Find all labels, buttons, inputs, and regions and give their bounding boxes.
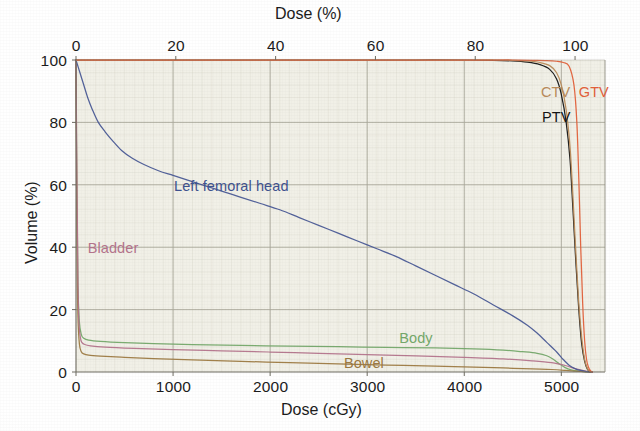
left-tick-80: 80 <box>49 115 67 131</box>
top-tick-60: 60 <box>367 38 385 54</box>
left-tick-40: 40 <box>49 240 67 256</box>
left-tick-20: 20 <box>49 303 67 319</box>
bottom-tick-1000: 1000 <box>156 379 191 395</box>
bottom-tick-5000: 5000 <box>544 379 579 395</box>
left-axis-title: Volume (%) <box>24 181 40 264</box>
annotation-left-femoral-head: Left femoral head <box>174 179 289 194</box>
top-axis-title: Dose (%) <box>275 6 342 22</box>
bottom-tick-4000: 4000 <box>447 379 482 395</box>
annotation-body: Body <box>399 331 432 346</box>
dvh-figure: Dose (%) 020406080100 010002000300040005… <box>0 0 640 431</box>
bottom-tick-3000: 3000 <box>350 379 385 395</box>
annotation-gtv: GTV <box>579 85 609 100</box>
left-tick-0: 0 <box>58 365 67 381</box>
left-tick-60: 60 <box>49 178 67 194</box>
top-tick-0: 0 <box>72 38 81 54</box>
top-tick-20: 20 <box>167 38 185 54</box>
top-tick-80: 80 <box>467 38 485 54</box>
annotation-bladder: Bladder <box>88 241 139 256</box>
annotation-bowel: Bowel <box>344 356 384 371</box>
dvh-plot <box>0 0 640 431</box>
bottom-axis-title: Dose (cGy) <box>281 402 362 418</box>
bottom-tick-0: 0 <box>72 379 81 395</box>
top-tick-40: 40 <box>267 38 285 54</box>
plot-background <box>76 60 605 372</box>
bottom-tick-2000: 2000 <box>253 379 288 395</box>
annotation-ctv: CTV <box>541 85 570 100</box>
annotation-ptv: PTV <box>542 110 571 125</box>
left-tick-100: 100 <box>41 53 67 69</box>
top-tick-100: 100 <box>562 38 588 54</box>
